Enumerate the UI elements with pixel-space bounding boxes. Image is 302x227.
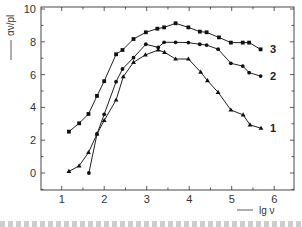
circle-marker-icon (186, 41, 190, 45)
circle-marker-icon (216, 47, 220, 51)
circle-marker-icon (102, 112, 106, 116)
circle-marker-icon (144, 42, 148, 46)
y-tick-label: 10 (24, 3, 36, 15)
circle-marker-icon (259, 74, 263, 78)
square-marker-icon (186, 25, 190, 29)
y-tick-label: 4 (30, 101, 36, 113)
x-axis-label: lg ν (237, 205, 275, 216)
square-marker-icon (259, 47, 263, 51)
x-tick-label: 1 (59, 193, 65, 205)
square-marker-icon (144, 30, 148, 34)
y-tick-label: 8 (30, 36, 36, 48)
x-tick-label: 6 (271, 193, 277, 205)
line-chart: 0246810 123456 123 αν/pl lg ν (0, 0, 302, 227)
square-marker-icon (198, 30, 202, 34)
circle-marker-icon (95, 132, 99, 136)
circle-marker-icon (174, 40, 178, 44)
x-tick-label: 3 (144, 193, 150, 205)
circle-marker-icon (205, 43, 209, 47)
square-marker-icon (217, 35, 221, 39)
x-tick-label: 2 (101, 193, 107, 205)
square-marker-icon (174, 21, 178, 25)
square-marker-icon (132, 37, 136, 41)
square-marker-icon (241, 41, 245, 45)
circle-marker-icon (162, 40, 166, 44)
square-marker-icon (229, 41, 233, 45)
square-marker-icon (155, 27, 159, 31)
series-2: 2 (87, 40, 276, 175)
x-axis-ticks: 123456 (59, 7, 278, 205)
triangle-marker-icon (86, 150, 91, 154)
series-label-3: 3 (270, 43, 276, 55)
data-series: 123 (67, 21, 277, 175)
circle-marker-icon (87, 171, 91, 175)
circle-marker-icon (229, 61, 233, 65)
x-tick-label: 4 (186, 193, 192, 205)
square-marker-icon (247, 41, 251, 45)
circle-marker-icon (121, 67, 125, 71)
series-label-1: 1 (270, 122, 276, 134)
y-tick-label: 6 (30, 69, 36, 81)
square-marker-icon (102, 79, 106, 83)
circle-marker-icon (156, 45, 160, 49)
square-marker-icon (162, 25, 166, 29)
triangle-marker-icon (114, 97, 119, 101)
square-marker-icon (205, 30, 209, 34)
circle-marker-icon (198, 42, 202, 46)
y-axis-ticks: 0246810 (24, 3, 294, 189)
circle-marker-icon (132, 56, 136, 60)
square-marker-icon (114, 52, 118, 56)
plot-frame (41, 7, 294, 190)
y-tick-label: 2 (30, 134, 36, 146)
y-tick-label: 0 (30, 167, 36, 179)
series-1: 1 (67, 47, 277, 173)
cropped-caption-line (0, 221, 302, 227)
square-marker-icon (121, 48, 125, 52)
x-tick-label: 5 (229, 193, 235, 205)
square-marker-icon (67, 130, 71, 134)
circle-marker-icon (241, 64, 245, 68)
series-label-2: 2 (270, 70, 276, 82)
y-axis-label: αν/pl (5, 15, 16, 60)
y-axis-label-text: αν/pl (5, 15, 16, 36)
square-marker-icon (95, 94, 99, 98)
circle-marker-icon (247, 71, 251, 75)
circle-marker-icon (114, 80, 118, 84)
square-marker-icon (77, 121, 81, 125)
x-axis-label-text: lg ν (259, 205, 275, 216)
square-marker-icon (87, 112, 91, 116)
